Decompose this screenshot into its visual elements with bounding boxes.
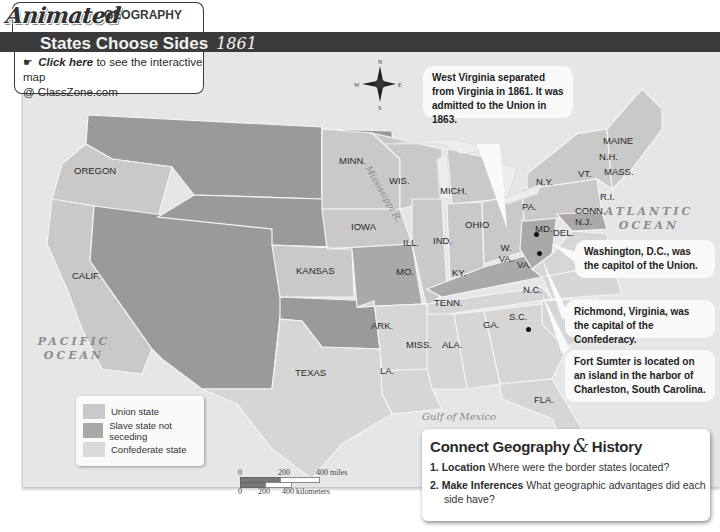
svg-text:N: N <box>378 59 383 65</box>
scale-km-400: 400 kilometers <box>282 487 330 496</box>
label-illinois: ILL. <box>403 237 419 248</box>
label-florida: FLA. <box>534 394 554 405</box>
label-rhode-island: R.I. <box>600 191 615 202</box>
label-texas: TEXAS <box>295 367 326 378</box>
legend-item-border: Slave state not seceding <box>83 421 204 440</box>
link-site: @ ClassZone.com <box>23 86 118 98</box>
question-2: 2. Make Inferences What geographic advan… <box>430 478 710 506</box>
question-1: 1. Location Where were the border states… <box>430 460 710 474</box>
interactive-map-link[interactable]: ☛ Click here to see the interactive map … <box>14 52 204 94</box>
label-delaware: DEL. <box>553 227 574 238</box>
label-alabama: ALA. <box>442 339 463 350</box>
border-state-swatch <box>83 423 103 438</box>
label-new-hampshire: N.H. <box>599 151 618 162</box>
label-arkansas: ARK. <box>371 320 393 331</box>
label-minnesota: MINN. <box>339 155 366 166</box>
scale-mile-200: 200 <box>278 468 290 477</box>
scale-bar: 0 200 400 miles 0 200 400 kilometers <box>238 468 358 496</box>
title-year: 1861 <box>216 34 257 53</box>
scale-mile-400: 400 miles <box>316 468 347 477</box>
label-maine: MAINE <box>603 135 633 146</box>
question-number: 2. <box>430 479 439 491</box>
label-new-york: N.Y. <box>536 176 553 187</box>
west-virginia-callout: West Virginia separated from Virginia in… <box>423 66 573 118</box>
brand-subtitle: GEOGRAPHY <box>104 8 182 22</box>
label-kentucky: KY. <box>452 267 466 278</box>
title-text: States Choose Sides <box>40 34 208 53</box>
label-wisconsin: WIS. <box>389 175 410 186</box>
question-text: Where were the border states located? <box>488 461 669 473</box>
richmond-marker <box>537 251 542 256</box>
scale-mile-0: 0 <box>238 468 242 477</box>
label-indiana: IND. <box>433 235 452 246</box>
fort-sumter-marker <box>526 327 531 332</box>
page-title: States Choose Sides1861 <box>40 34 257 54</box>
mouse-click-icon: ☛ <box>23 55 35 70</box>
washington-callout: Washington, D.C., was the capitol of the… <box>575 240 715 278</box>
legend-item-union: Union state <box>83 402 204 421</box>
question-label: Make Inferences <box>442 479 524 491</box>
legend-label: Union state <box>111 406 159 417</box>
label-south-carolina: S.C. <box>509 311 527 322</box>
connect-title-amp: & <box>573 435 589 456</box>
label-tennessee: TENN. <box>434 297 463 308</box>
connect-title: Connect Geography&History <box>430 435 710 456</box>
richmond-callout: Richmond, Virginia, was the capital of t… <box>565 300 715 338</box>
label-west-virginia: W. VA. <box>494 242 518 264</box>
question-number: 1. <box>430 461 439 473</box>
label-california: CALIF. <box>72 270 101 281</box>
fort-sumter-callout: Fort Sumter is located on an island in t… <box>565 350 715 402</box>
legend-label: Slave state not seceding <box>109 420 204 442</box>
connect-geography-history-box: Connect Geography&History 1. Location Wh… <box>422 429 710 521</box>
label-massachusetts: MASS. <box>604 166 634 177</box>
label-missouri: MO. <box>396 266 414 277</box>
svg-text:S: S <box>378 105 381 111</box>
legend-item-confederate: Confederate state <box>83 440 204 459</box>
label-ohio: OHIO <box>465 219 489 230</box>
label-louisiana: LA. <box>380 365 394 376</box>
label-kansas: KANSAS <box>296 265 335 276</box>
gulf-of-mexico-label: Gulf of Mexico <box>422 411 496 422</box>
scale-km-200: 200 <box>258 487 270 496</box>
connect-title-left: Connect Geography <box>430 438 570 455</box>
question-label: Location <box>442 461 486 473</box>
click-here-link[interactable]: Click here <box>38 56 93 68</box>
label-vermont: VT. <box>578 168 592 179</box>
label-north-carolina: N.C. <box>523 284 542 295</box>
union-swatch <box>83 404 105 419</box>
label-virginia: VA. <box>517 259 532 270</box>
pacific-ocean-label: PACIFIC OCEAN <box>34 335 114 363</box>
washington-dc-marker <box>534 232 539 237</box>
map-legend: Union state Slave state not seceding Con… <box>76 396 204 466</box>
compass-rose-icon: N S E W <box>352 56 408 112</box>
svg-text:W: W <box>354 82 360 88</box>
label-georgia: GA. <box>483 319 499 330</box>
atlantic-ocean-label: ATLANTIC OCEAN <box>594 205 704 233</box>
confederate-swatch <box>83 442 105 457</box>
legend-label: Confederate state <box>111 444 187 455</box>
label-oregon: OREGON <box>74 165 116 176</box>
label-pennsylvania: PA. <box>522 201 537 212</box>
label-iowa: IOWA <box>351 221 376 232</box>
scale-km-0: 0 <box>238 487 242 496</box>
label-mississippi: MISS. <box>406 339 432 350</box>
label-michigan: MICH. <box>440 185 467 196</box>
connect-title-right: History <box>592 438 642 455</box>
label-new-jersey: N.J. <box>575 216 592 227</box>
svg-text:E: E <box>398 82 402 88</box>
